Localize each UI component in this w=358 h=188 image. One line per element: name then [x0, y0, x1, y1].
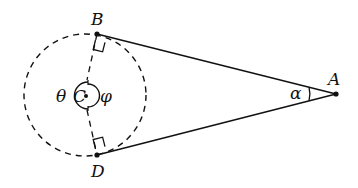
label-b: B [90, 9, 104, 29]
point-a [333, 91, 338, 96]
angle-arc-alpha [309, 87, 310, 101]
label-c: C [73, 86, 86, 106]
label-a: A [326, 69, 340, 89]
label-alpha: α [290, 83, 302, 103]
angle-arc-phi [88, 84, 99, 107]
label-phi: φ [100, 86, 112, 106]
tangent-diagram: B D A C θ φ α [0, 0, 358, 188]
label-d: D [90, 161, 105, 181]
tangent-line-da [97, 94, 336, 155]
diagram-canvas: B D A C θ φ α [0, 0, 358, 188]
point-d [94, 152, 99, 157]
point-b [94, 31, 99, 36]
label-theta: θ [56, 86, 66, 106]
